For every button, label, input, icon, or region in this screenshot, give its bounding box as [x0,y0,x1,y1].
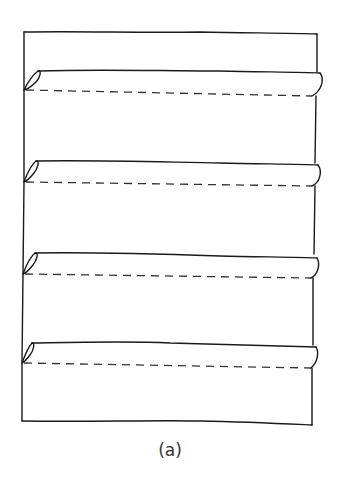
pleat-left-curl [23,253,37,274]
pleated-panel-diagram [0,0,340,490]
dashed-fold-line-4 [24,363,311,368]
pleat-fold-top [32,342,316,347]
pleat-right-curl [312,73,322,96]
pleat-right-curl [311,258,319,278]
dashed-fold-line-1 [26,90,312,96]
pleat-1 [24,70,322,96]
pleat-right-curl [312,165,320,186]
figure-caption: (a) [0,440,340,460]
pleat-fold-top [38,70,320,73]
dashed-fold-line-3 [25,274,311,278]
dashed-fold-line-2 [26,182,312,186]
panel-top-edge [24,32,317,34]
pleat-fold-top [36,161,318,165]
pleat-left-curl [24,161,38,182]
pleat-left-curl [24,71,40,90]
pleat-fold-top [35,253,317,258]
pleat-left-curl [22,343,34,363]
pleat-right-curl [311,347,318,368]
panel-bottom-edge [22,421,312,425]
